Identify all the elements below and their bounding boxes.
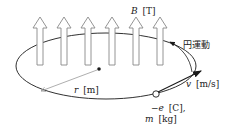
radius-unit: [m] xyxy=(83,85,99,95)
radius-symbol: r xyxy=(74,85,79,95)
velocity-unit: [m/s] xyxy=(196,79,219,89)
mass-label: m [kg] xyxy=(145,114,177,124)
diagram-canvas: B [T] 円運動 r [m] v [m/s] −e [C], m [kg] xyxy=(0,0,227,133)
field-arrow-icon xyxy=(129,17,143,65)
orbit-center-dot xyxy=(97,67,101,71)
velocity-label: v [m/s] xyxy=(186,79,219,89)
circular-motion-label: 円運動 xyxy=(183,40,210,50)
field-unit: [T] xyxy=(143,6,156,16)
field-symbol: B xyxy=(130,6,138,16)
velocity-arrow-icon xyxy=(158,71,201,92)
field-arrow-icon xyxy=(57,17,71,65)
velocity-symbol: v xyxy=(186,79,191,89)
field-arrow-icon xyxy=(33,17,47,65)
field-arrow-icon xyxy=(105,17,119,65)
mass-symbol: m xyxy=(145,114,154,124)
orbit-front-arc xyxy=(16,66,196,99)
charge-unit: [C], xyxy=(169,103,186,113)
field-arrow-icon xyxy=(81,17,95,65)
mass-unit: [kg] xyxy=(158,114,176,124)
magnetic-field-arrows xyxy=(33,17,167,65)
charge-symbol: −e xyxy=(151,103,164,113)
charge-label: −e [C], xyxy=(151,103,186,113)
radius-label: r [m] xyxy=(74,85,99,95)
field-label: B [T] xyxy=(130,6,156,16)
